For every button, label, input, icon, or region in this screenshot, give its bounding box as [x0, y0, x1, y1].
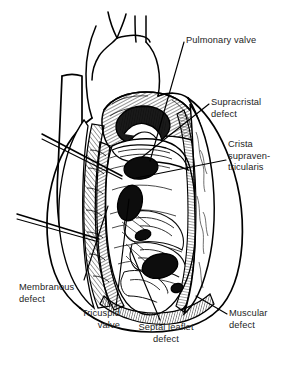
label-tricuspid-valve-line-1: Tricuspid: [64, 308, 120, 320]
label-muscular-defect: Musculardefect: [229, 308, 268, 331]
label-muscular-defect-line-2: defect: [229, 320, 268, 332]
label-supracristal-defect-line-1: Supracristal: [211, 97, 261, 109]
label-supracristal-defect-line-2: defect: [211, 109, 261, 121]
label-crista-supraventricularis-line-2: supraven-: [228, 151, 270, 163]
label-membranous-defect: Membranousdefect: [19, 282, 74, 305]
label-pulmonary-valve-line-1: Pulmonary valve: [186, 35, 256, 47]
label-pulmonary-valve: Pulmonary valve: [186, 35, 256, 47]
label-crista-supraventricularis: Cristasupraven-tricularis: [228, 139, 270, 174]
label-tricuspid-valve-line-2: valve: [64, 320, 120, 332]
label-membranous-defect-line-1: Membranous: [19, 282, 74, 294]
label-crista-supraventricularis-line-1: Crista: [228, 139, 270, 151]
label-membranous-defect-line-2: defect: [19, 294, 74, 306]
label-septal-leaflet-defect: Septal leafletdefect: [131, 322, 201, 345]
label-muscular-defect-line-1: Muscular: [229, 308, 268, 320]
label-septal-leaflet-defect-line-1: Septal leaflet: [131, 322, 201, 334]
label-septal-leaflet-defect-line-2: defect: [131, 334, 201, 346]
label-supracristal-defect: Supracristaldefect: [211, 97, 261, 120]
label-tricuspid-valve: Tricuspidvalve: [64, 308, 120, 331]
label-crista-supraventricularis-line-3: tricularis: [228, 162, 270, 174]
anatomical-figure: Pulmonary valveSupracristaldefectCristas…: [0, 0, 289, 368]
